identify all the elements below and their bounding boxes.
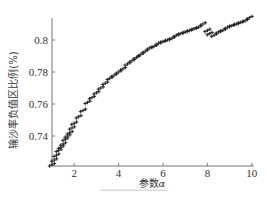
y-tick-label: 0.74 (29, 130, 49, 142)
x-tick-label: 4 (116, 167, 122, 179)
x-ticks: 246810 (71, 163, 257, 179)
y-tick-label: 0.78 (29, 66, 49, 78)
figure-caption-faint: ━━━━━━━━━━━━━━ (0, 186, 268, 195)
y-tick-label: 0.76 (29, 98, 49, 110)
axes (52, 18, 254, 166)
data-points (48, 15, 254, 168)
x-tick-label: 10 (246, 167, 258, 179)
y-axis-title: 输沙率负值区比例(%) (7, 51, 19, 148)
y-tick-label: 0.8 (34, 34, 48, 46)
x-tick-label: 2 (71, 167, 77, 179)
scatter-chart: 0.740.760.780.8 246810 参数α 输沙率负值区比例(%) (0, 0, 268, 201)
y-ticks: 0.740.760.780.8 (29, 34, 55, 142)
x-tick-label: 8 (205, 167, 211, 179)
